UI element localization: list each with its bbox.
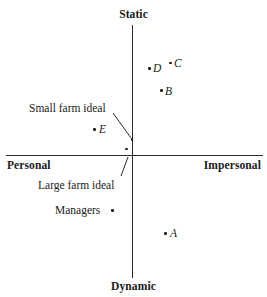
annotation-small-farm-ideal: Small farm ideal bbox=[29, 103, 106, 115]
large-farm-ideal-leader-line bbox=[0, 0, 267, 297]
annotation-managers: Managers bbox=[55, 205, 100, 217]
annotation-large-farm-ideal: Large farm ideal bbox=[38, 180, 114, 192]
scatter-figure: Static Dynamic Personal Impersonal C D B… bbox=[0, 0, 267, 297]
